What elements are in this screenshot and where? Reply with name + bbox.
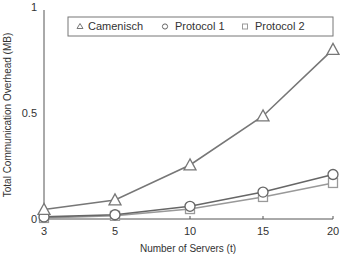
y-tick-label: 0 [31, 213, 37, 225]
data-point-camenisch [184, 159, 196, 170]
x-tick-label: 5 [112, 225, 118, 237]
y-tick-label: 0.5 [22, 107, 37, 119]
data-point-protocol-1 [185, 201, 195, 211]
y-tick-label: 1 [31, 1, 37, 13]
series-camenisch [38, 43, 339, 214]
x-axis-title: Number of Servers (t) [140, 243, 236, 254]
line-chart: 3510152000.51 Camenisch Protocol 1 Proto… [0, 0, 341, 256]
x-tick-label: 3 [41, 225, 47, 237]
legend-marker-protocol-2 [243, 24, 248, 29]
legend-label-protocol-1: Protocol 1 [175, 20, 225, 32]
data-point-camenisch [327, 43, 339, 54]
legend: Camenisch Protocol 1 Protocol 2 [68, 17, 333, 36]
data-point-protocol-1 [110, 210, 120, 220]
legend-label-camenisch: Camenisch [88, 20, 143, 32]
legend-marker-protocol-1 [162, 24, 167, 29]
y-axis-title: Total Communication Overhead (MB) [2, 33, 13, 198]
data-point-camenisch [109, 194, 121, 205]
x-tick-label: 15 [257, 225, 269, 237]
data-point-protocol-1 [258, 187, 268, 197]
x-tick-label: 20 [327, 225, 339, 237]
x-tick-label: 10 [184, 225, 196, 237]
data-point-protocol-1 [328, 169, 338, 179]
legend-label-protocol-2: Protocol 2 [255, 20, 305, 32]
series-layer [38, 43, 339, 222]
